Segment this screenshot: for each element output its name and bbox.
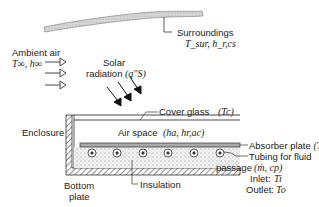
- outlet-label: Outlet:: [246, 184, 274, 195]
- ambient-air-arrows: [45, 58, 66, 89]
- collector-diagram: [0, 0, 319, 207]
- absorber-plate: [80, 143, 240, 147]
- outlet-var: To: [276, 184, 286, 195]
- solar-radiation-var: (q″S): [125, 68, 146, 79]
- absorber-plate-label: Absorber plate (Ta, α): [249, 140, 319, 151]
- solar-radiation-label: Solar: [103, 57, 125, 68]
- surroundings-label: Surroundings: [177, 27, 234, 38]
- ambient-air-vars: T∞, h∞: [12, 58, 42, 69]
- bottom-plate-label-2: plate: [69, 191, 90, 202]
- solar-radiation-label-2: radiation: [86, 68, 122, 79]
- inlet-var: Ti: [274, 173, 282, 184]
- solar-radiation-arrows: [107, 77, 141, 106]
- cover-glass-var: (Tc): [218, 106, 234, 117]
- tubing-label-2: passage: [216, 162, 252, 173]
- tubing-vars: (ṁ, cp): [254, 162, 282, 173]
- air-space-vars: (ha, hr,ac): [163, 127, 204, 138]
- enclosure-label: Enclosure: [22, 127, 64, 138]
- insulation-label: Insulation: [140, 179, 181, 190]
- ambient-air-label: Ambient air: [12, 47, 60, 58]
- surroundings-leader: [164, 17, 172, 32]
- absorber-vars-inline: (Ta, α): [313, 140, 319, 151]
- air-space-label: Air space: [118, 127, 158, 138]
- inlet-label: Inlet:: [250, 173, 271, 184]
- tubing-label-1: Tubing for fluid: [249, 151, 312, 162]
- bottom-plate-label-1: Bottom: [64, 180, 94, 191]
- cover-glass-label: Cover glass: [159, 106, 209, 117]
- surroundings-vars: T_sur, h_r,cs: [185, 38, 236, 49]
